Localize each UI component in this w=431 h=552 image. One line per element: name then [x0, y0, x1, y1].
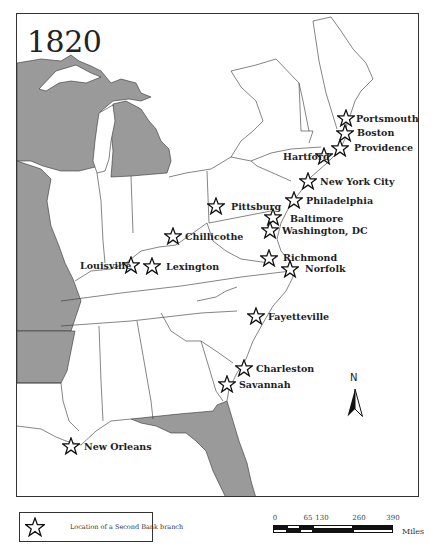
city-label-chillicothe: Chillicothe: [185, 232, 243, 242]
legend-text: Location of a Second Bank branch: [70, 523, 183, 531]
city-label-new-york-city: New York City: [320, 177, 394, 187]
star-icon-lexington[interactable]: [143, 257, 161, 275]
star-icon-philadelphia[interactable]: [285, 191, 303, 209]
scale-tick-65: 65: [304, 514, 313, 522]
north-label: N: [350, 372, 357, 383]
star-icon-fayetteville[interactable]: [247, 307, 265, 325]
star-icon-providence[interactable]: [331, 139, 349, 157]
city-label-charleston: Charleston: [256, 364, 314, 374]
scale-segment: [313, 529, 353, 533]
legend-box: Location of a Second Bank branch: [19, 512, 153, 542]
star-icon-norfolk[interactable]: [281, 260, 299, 278]
city-label-boston: Boston: [357, 128, 394, 138]
north-arrow-icon: [345, 384, 365, 424]
scale-tick-0: 0: [273, 514, 277, 522]
star-icon-washington-dc[interactable]: [261, 221, 279, 239]
map-frame: 1820: [16, 13, 419, 497]
scale-bar: 0 65 130 260 390 Miles: [271, 514, 431, 544]
star-icon-pittsburg[interactable]: [207, 197, 225, 215]
city-label-washington-dc: Washington, DC: [282, 226, 367, 236]
city-label-hartford: Hartford: [283, 152, 330, 162]
star-outline-icon: [25, 517, 45, 537]
scale-tick-130: 130: [315, 514, 328, 522]
city-label-savannah: Savannah: [239, 380, 291, 390]
star-icon-savannah[interactable]: [218, 375, 236, 393]
star-icon-charleston[interactable]: [235, 359, 253, 377]
territory-missouri-shaded: [17, 161, 81, 331]
city-label-new-orleans: New Orleans: [84, 442, 152, 452]
star-icon-richmond[interactable]: [260, 249, 278, 267]
city-label-norfolk: Norfolk: [305, 264, 346, 274]
city-label-portsmouth: Portsmouth: [356, 114, 419, 124]
city-label-baltimore: Baltimore: [290, 214, 343, 224]
scale-segment: [300, 529, 313, 533]
scale-tick-390: 390: [386, 514, 399, 522]
city-label-louisville: Louisville: [80, 261, 131, 271]
map-base-svg: [17, 14, 419, 497]
star-icon-chillicothe[interactable]: [164, 227, 182, 245]
michigan-shaded: [111, 101, 171, 177]
scale-units: Miles: [402, 527, 424, 536]
scale-segment: [273, 529, 287, 533]
city-label-fayetteville: Fayetteville: [268, 312, 329, 322]
territory-arkansas-shaded: [17, 331, 75, 383]
city-label-philadelphia: Philadelphia: [306, 196, 373, 206]
star-icon-new-york-city[interactable]: [299, 172, 317, 190]
scale-segment: [353, 529, 393, 533]
city-label-providence: Providence: [354, 143, 413, 153]
scale-segment: [287, 529, 300, 533]
map-title: 1820: [27, 24, 101, 59]
city-label-lexington: Lexington: [166, 262, 219, 272]
star-icon-new-orleans[interactable]: [62, 437, 80, 455]
scale-tick-260: 260: [352, 514, 365, 522]
